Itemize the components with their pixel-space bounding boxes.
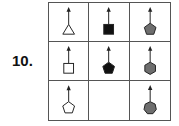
- problem-number: 10.: [12, 52, 33, 69]
- arrow-up-icon: [67, 85, 71, 90]
- pentagon-shape: [103, 62, 115, 73]
- square-with-arrow-icon: [89, 3, 128, 41]
- cell-r2-c2: [89, 42, 129, 81]
- hexagon-with-arrow-icon: [130, 42, 170, 80]
- cell-r1-c1: [49, 3, 89, 42]
- cell-r2-c1: [49, 42, 89, 81]
- arrow-up-icon: [148, 46, 152, 51]
- triangle-with-arrow-icon: [49, 3, 88, 41]
- hexagon-shape: [145, 62, 156, 74]
- matrix-grid: [48, 2, 171, 121]
- heptagon-with-arrow-icon: [130, 81, 170, 120]
- cell-r3-c2-missing[interactable]: [89, 81, 129, 120]
- heptagon-shape: [144, 102, 156, 114]
- arrow-up-icon: [107, 46, 111, 51]
- square-with-arrow-icon: [49, 42, 88, 80]
- square-shape: [104, 24, 114, 34]
- cell-r3-c3: [130, 81, 170, 120]
- arrow-up-icon: [148, 7, 152, 12]
- cell-r2-c3: [130, 42, 170, 81]
- arrow-up-icon: [67, 46, 71, 51]
- arrow-up-icon: [107, 7, 111, 12]
- square-shape: [64, 63, 74, 73]
- triangle-shape: [63, 24, 75, 34]
- pentagon-with-arrow-icon: [89, 42, 128, 80]
- arrow-up-icon: [67, 7, 71, 12]
- pentagon-with-arrow-icon: [130, 3, 170, 41]
- pentagon-shape: [144, 23, 156, 34]
- cell-r1-c3: [130, 3, 170, 42]
- arrow-up-icon: [148, 85, 152, 90]
- pentagon-with-arrow-icon: [49, 81, 88, 120]
- pentagon-shape: [63, 102, 75, 113]
- cell-r3-c1: [49, 81, 89, 120]
- cell-r1-c2: [89, 3, 129, 42]
